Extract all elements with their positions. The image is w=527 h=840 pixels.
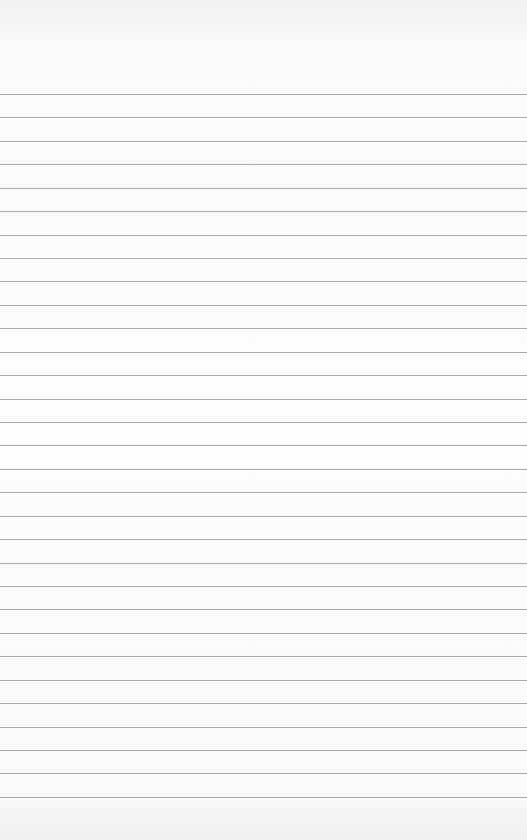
ruled-line	[0, 399, 527, 400]
lined-paper	[0, 0, 527, 840]
ruled-line	[0, 141, 527, 142]
ruled-line	[0, 281, 527, 282]
ruled-line	[0, 586, 527, 587]
ruled-line	[0, 211, 527, 212]
ruled-line	[0, 680, 527, 681]
ruled-line	[0, 750, 527, 751]
ruled-line	[0, 773, 527, 774]
ruled-line	[0, 492, 527, 493]
ruled-line	[0, 469, 527, 470]
ruled-line	[0, 328, 527, 329]
ruled-line	[0, 375, 527, 376]
ruled-line	[0, 656, 527, 657]
ruled-line	[0, 633, 527, 634]
ruled-line	[0, 609, 527, 610]
ruled-line	[0, 258, 527, 259]
ruled-line	[0, 164, 527, 165]
ruled-line	[0, 516, 527, 517]
ruled-line	[0, 352, 527, 353]
ruled-line	[0, 94, 527, 95]
ruled-line	[0, 235, 527, 236]
ruled-line	[0, 797, 527, 798]
ruled-line	[0, 703, 527, 704]
ruled-line	[0, 117, 527, 118]
ruled-line	[0, 305, 527, 306]
ruled-line	[0, 422, 527, 423]
ruled-line	[0, 563, 527, 564]
ruled-line	[0, 539, 527, 540]
ruled-line	[0, 727, 527, 728]
ruled-line	[0, 188, 527, 189]
ruled-line	[0, 445, 527, 446]
